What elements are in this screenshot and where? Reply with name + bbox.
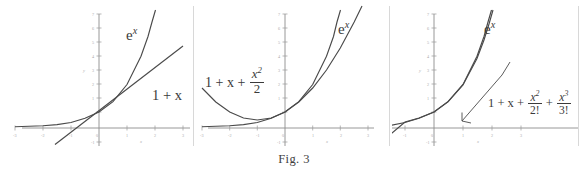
svg-text:3: 3 [520, 133, 522, 138]
label-approx-panel-2: 1 + x + x22 [205, 70, 265, 98]
svg-text:-1: -1 [403, 133, 407, 138]
svg-text:4: 4 [278, 54, 281, 59]
svg-text:y: y [418, 68, 422, 73]
svg-text:x: x [139, 139, 142, 144]
panel-divider-2 [389, 6, 390, 146]
plot-svg-1: -3 -2 -1 0 1 2 3 7 6 5 [0, 0, 196, 152]
svg-text:-1: -1 [256, 133, 260, 138]
figure-caption: Fig. 3 [0, 152, 588, 167]
svg-text:2: 2 [427, 82, 429, 87]
svg-text:3: 3 [427, 68, 429, 73]
svg-text:7: 7 [427, 12, 429, 17]
svg-text:1: 1 [427, 96, 429, 101]
svg-text:-1: -1 [277, 140, 281, 145]
svg-text:6: 6 [278, 26, 280, 31]
svg-text:1: 1 [92, 96, 94, 101]
svg-text:-3: -3 [13, 133, 17, 138]
label-exp-panel-3: ex [484, 22, 495, 37]
svg-text:4: 4 [92, 54, 95, 59]
svg-text:0: 0 [431, 133, 433, 138]
svg-text:2: 2 [340, 133, 342, 138]
plot-panel-3: -1 0 1 2 3 7 6 5 4 3 2 [392, 0, 588, 152]
svg-text:-2: -2 [41, 133, 45, 138]
svg-text:0: 0 [96, 133, 98, 138]
svg-text:6: 6 [92, 26, 94, 31]
plot-panel-1: -3 -2 -1 0 1 2 3 7 6 5 [0, 0, 196, 152]
x-ticks-1: -3 -2 -1 0 1 2 3 [13, 126, 184, 139]
svg-text:-2: -2 [228, 133, 232, 138]
svg-text:5: 5 [278, 40, 280, 45]
svg-text:3: 3 [278, 68, 280, 73]
curve-exp-2 [202, 10, 341, 127]
svg-text:1: 1 [126, 133, 128, 138]
svg-text:0: 0 [282, 133, 284, 138]
curve-exp-3 [392, 10, 492, 127]
svg-text:x: x [476, 139, 479, 144]
svg-text:x: x [325, 139, 328, 144]
svg-text:4: 4 [427, 54, 430, 59]
label-approx-panel-1: 1 + x [152, 88, 182, 103]
panel-divider-3 [578, 6, 579, 146]
svg-text:5: 5 [427, 40, 429, 45]
svg-text:6: 6 [427, 26, 429, 31]
curve-cubic-3 [392, 10, 493, 144]
svg-text:-3: -3 [200, 133, 204, 138]
svg-text:2: 2 [491, 133, 493, 138]
label-exp-panel-1: ex [126, 28, 137, 43]
svg-text:1: 1 [312, 133, 314, 138]
svg-text:-1: -1 [426, 140, 430, 145]
svg-text:1: 1 [278, 96, 280, 101]
svg-text:3: 3 [367, 133, 369, 138]
figure-container: -3 -2 -1 0 1 2 3 7 6 5 [0, 0, 588, 178]
svg-text:-1: -1 [91, 140, 95, 145]
x-ticks-3: -1 0 1 2 3 [392, 126, 522, 139]
svg-text:1: 1 [462, 133, 464, 138]
label-exp-panel-2: ex [338, 22, 349, 37]
svg-text:3: 3 [92, 68, 94, 73]
svg-text:2: 2 [154, 133, 156, 138]
svg-text:7: 7 [278, 12, 280, 17]
svg-text:y: y [82, 68, 86, 73]
svg-text:2: 2 [278, 82, 280, 87]
svg-text:5: 5 [92, 40, 94, 45]
svg-text:2: 2 [92, 82, 94, 87]
svg-text:3: 3 [182, 133, 184, 138]
svg-text:7: 7 [92, 12, 94, 17]
x-ticks-2: -3 -2 -1 0 1 2 3 [200, 126, 369, 139]
plot-panel-2: -3 -2 -1 0 1 2 3 7 6 5 4 [196, 0, 392, 152]
panel-divider-1 [193, 6, 194, 146]
y-ticks-3: 7 6 5 4 3 2 1 -1 y x [418, 12, 479, 146]
label-approx-panel-3: 1 + x + x22! + x33! [488, 92, 572, 117]
